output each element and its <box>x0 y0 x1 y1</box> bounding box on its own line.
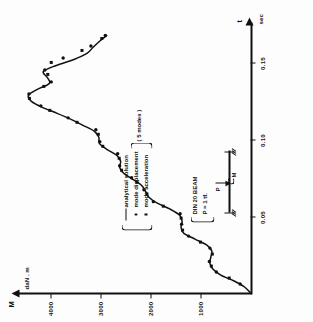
beam-load-label: P <box>214 187 220 191</box>
legend-brace-right <box>130 142 152 148</box>
beam-caption-line-1: DIN 20 BEAM <box>189 176 199 214</box>
moment-arc-icon <box>227 177 234 184</box>
data-point <box>46 72 49 75</box>
legend-label: mode displacement <box>132 151 138 207</box>
data-point <box>100 36 103 39</box>
beam-moment-label: M <box>230 172 236 177</box>
legend-item-mode-acceleration: mode acceleration <box>140 112 150 221</box>
legend-item-analytical: analytical solution <box>120 112 130 221</box>
beam-brace <box>190 216 214 222</box>
legend-brace-left <box>121 224 152 230</box>
legend-label: mode acceleration <box>142 154 148 207</box>
data-point <box>80 48 83 51</box>
legend-modes-note: ( 5 modes ) <box>135 109 141 141</box>
chart-screenshot: t sec M daN . m 0.05 0.10 0.15 1000 2000… <box>0 0 313 322</box>
legend-dot-swatch <box>132 207 138 221</box>
legend-line-swatch <box>122 207 128 221</box>
beam-caption: DIN 20 BEAM P = 1 tf. <box>189 176 209 214</box>
legend-square-swatch <box>142 207 148 221</box>
data-point <box>61 56 64 59</box>
figure: t sec M daN . m 0.05 0.10 0.15 1000 2000… <box>0 0 313 322</box>
data-point <box>27 92 30 95</box>
data-point <box>89 44 92 47</box>
beam-caption-line-2: P = 1 tf. <box>199 176 209 214</box>
data-point <box>49 60 52 63</box>
rotated-figure-container: t sec M daN . m 0.05 0.10 0.15 1000 2000… <box>0 0 313 322</box>
plot-area <box>0 0 313 322</box>
legend-label: analytical solution <box>122 155 128 207</box>
data-point <box>103 33 106 36</box>
legend: analytical solution mode displacement mo… <box>120 112 150 230</box>
beam-sketch-icon: P M <box>214 140 244 214</box>
